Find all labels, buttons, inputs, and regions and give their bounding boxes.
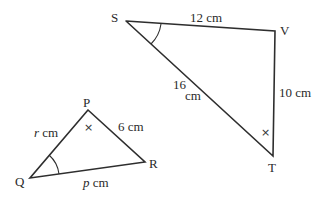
vertex-p-label: P — [83, 95, 90, 110]
side-qr-unit: cm — [90, 175, 109, 190]
side-st-unit: cm — [185, 88, 201, 103]
vertex-s-label: S — [111, 10, 118, 25]
side-vt-label: 10 cm — [279, 85, 311, 100]
vertex-v-label: V — [280, 23, 290, 38]
angle-p-cross: × — [84, 121, 93, 134]
side-sv-label: 12 cm — [190, 10, 222, 25]
vertex-q-label: Q — [15, 174, 25, 189]
angle-s-arc — [151, 24, 161, 44]
triangle-stv: × S V T 12 cm 10 cm 16 cm — [111, 10, 311, 175]
triangle-pqr: × P Q R r cm 6 cm p cm — [15, 95, 158, 190]
vertex-t-label: T — [268, 160, 276, 175]
side-pq-label: r cm — [34, 125, 58, 140]
similar-triangles-diagram: × S V T 12 cm 10 cm 16 cm × P Q R r cm 6… — [0, 0, 327, 198]
angle-t-cross: × — [261, 126, 270, 139]
side-pq-unit: cm — [39, 125, 58, 140]
angle-q-arc — [49, 155, 59, 174]
side-qr-label: p cm — [82, 175, 109, 190]
vertex-r-label: R — [149, 156, 158, 171]
side-pr-label: 6 cm — [118, 119, 144, 134]
